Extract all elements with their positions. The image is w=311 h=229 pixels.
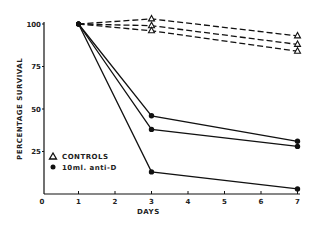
circle-marker — [149, 113, 154, 118]
triangle-marker — [295, 32, 301, 38]
x-tick-label: 2 — [113, 198, 118, 206]
triangle-marker — [295, 41, 301, 47]
x-axis-label: DAYS — [137, 208, 160, 216]
x-tick-label: 1 — [76, 198, 81, 206]
x-tick-label: 7 — [295, 198, 300, 206]
circle-marker — [149, 127, 154, 132]
series-line — [79, 19, 298, 36]
x-tick-label: 0 — [40, 198, 45, 206]
data-point — [76, 22, 81, 27]
legend-controls-label: CONTROLS — [62, 153, 109, 161]
triangle-icon — [50, 153, 57, 159]
x-tick-label: 3 — [149, 198, 154, 206]
x-tick-label: 4 — [186, 198, 191, 206]
legend: CONTROLS 10ml. anti-D — [50, 153, 117, 172]
series-line — [79, 24, 298, 141]
filled-circle-icon — [51, 165, 56, 170]
triangle-marker — [295, 48, 301, 54]
circle-marker — [295, 139, 300, 144]
circle-marker — [149, 169, 154, 174]
circle-marker — [295, 186, 300, 191]
x-tick-label: 6 — [259, 198, 264, 206]
x-tick-label: 5 — [222, 198, 227, 206]
circle-marker — [295, 144, 300, 149]
y-axis-label: PERCENTAGE SURVIVAL — [16, 58, 24, 160]
legend-antid-label: 10ml. anti-D — [62, 164, 117, 172]
y-tick-label: 50 — [31, 106, 41, 114]
y-tick-label: 100 — [26, 21, 41, 29]
survival-chart: 01234567255075100 CONTROLS 10ml. anti-D … — [0, 0, 311, 229]
series-line — [79, 24, 298, 146]
triangle-marker — [149, 15, 155, 21]
axes: 01234567255075100 — [26, 21, 300, 207]
y-tick-label: 75 — [31, 63, 41, 71]
series-line — [79, 24, 298, 51]
y-tick-label: 25 — [31, 148, 41, 156]
